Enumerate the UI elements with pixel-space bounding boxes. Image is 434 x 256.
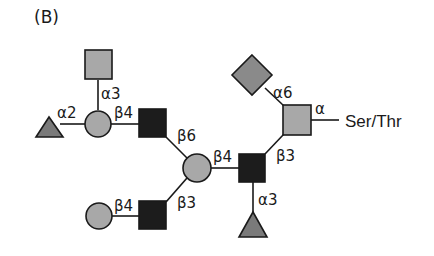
linkage-label: β6 xyxy=(177,127,196,145)
linkage-label: β4 xyxy=(114,104,133,122)
linkage-label: β3 xyxy=(276,147,295,165)
glcnac-core-square-icon xyxy=(239,154,265,182)
linkage-label: α3 xyxy=(101,85,120,103)
galactose-center-circle-icon xyxy=(183,154,211,182)
glcnac-lower-square-icon xyxy=(139,201,166,229)
fucose-bottom-triangle-icon xyxy=(239,212,267,237)
galactose-upper-circle-icon xyxy=(85,111,111,137)
glcnac-upper-square-icon xyxy=(139,109,166,137)
linkage-label: α3 xyxy=(258,191,277,209)
glycan-diagram: (B) α3 α2 β4 β6 β4 β3 β4 β3 α3 α6 α Ser/… xyxy=(0,0,434,256)
panel-label: (B) xyxy=(34,7,59,27)
linkage-label: α xyxy=(315,100,325,118)
linkage-label: β4 xyxy=(213,148,232,166)
linkage-label: α6 xyxy=(273,84,292,102)
linkage-label: β3 xyxy=(177,194,196,212)
linkage-label: β4 xyxy=(114,197,133,215)
galnac-root-square-icon xyxy=(283,105,311,135)
galactose-lower-circle-icon xyxy=(86,203,112,229)
aglycone-label: Ser/Thr xyxy=(345,112,402,131)
linkage-label: α2 xyxy=(57,104,76,122)
galnac-top-square-icon xyxy=(85,50,112,79)
